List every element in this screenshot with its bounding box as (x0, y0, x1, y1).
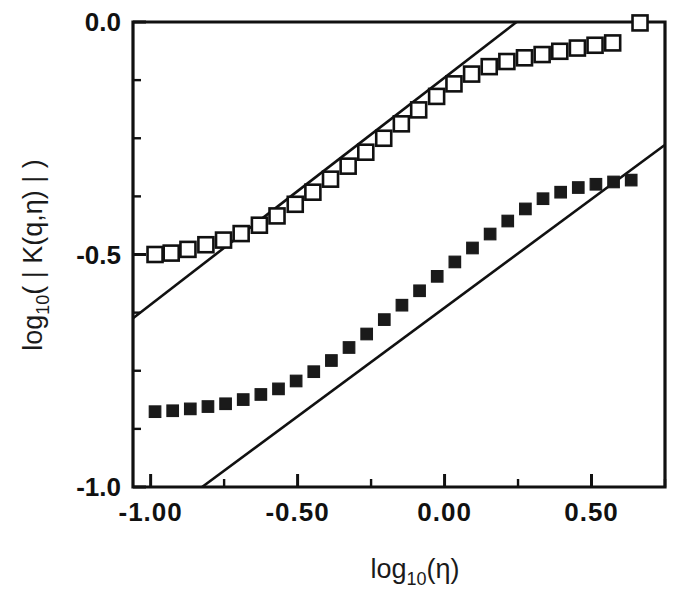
series-filled-squares (149, 174, 637, 417)
data-point-open-squares-3 (198, 237, 213, 252)
y-tick-label: -0.5 (76, 240, 121, 270)
data-point-filled-squares-24 (573, 182, 585, 194)
upper-fit-line (133, 22, 517, 318)
data-point-filled-squares-6 (255, 389, 266, 401)
data-point-open-squares-20 (499, 54, 514, 69)
data-point-open-squares-25 (588, 38, 603, 53)
data-point-filled-squares-19 (484, 228, 496, 240)
y-axis-tick-labels: 0.0-0.5-1.0 (76, 7, 121, 502)
plot-frame (133, 22, 665, 487)
x-tick-label: 0.00 (417, 497, 472, 527)
data-point-open-squares-27 (633, 15, 648, 30)
data-point-open-squares-15 (411, 102, 426, 117)
data-point-open-squares-19 (482, 59, 497, 74)
data-point-filled-squares-5 (237, 394, 249, 406)
data-point-open-squares-11 (341, 159, 356, 174)
x-axis-tick-labels: -1.00-0.500.000.50 (119, 497, 619, 527)
data-point-filled-squares-27 (625, 174, 637, 186)
x-tick-label: 0.50 (564, 497, 619, 527)
axis-frame (133, 22, 665, 487)
data-point-open-squares-22 (535, 47, 550, 62)
data-point-filled-squares-13 (379, 314, 391, 326)
lower-fit-line (202, 145, 664, 487)
data-point-filled-squares-25 (590, 179, 602, 191)
data-point-open-squares-12 (358, 145, 373, 160)
y-axis-major-ticks (133, 22, 146, 487)
x-axis-title-base: log (370, 554, 406, 584)
data-point-open-squares-16 (429, 89, 444, 104)
data-point-open-squares-4 (216, 233, 231, 248)
data-point-filled-squares-26 (608, 176, 620, 188)
data-point-filled-squares-22 (537, 193, 549, 205)
y-tick-label: 0.0 (85, 7, 121, 37)
y-axis-title-base: log (18, 315, 48, 351)
x-axis-title: log10(η) (370, 554, 459, 589)
fit-lines-group (133, 22, 664, 487)
svg-text:log10(η): log10(η) (370, 554, 459, 589)
data-point-open-squares-18 (464, 67, 479, 82)
x-axis-title-subscript: 10 (407, 569, 427, 589)
data-point-open-squares-23 (552, 44, 567, 59)
data-point-filled-squares-18 (467, 242, 479, 254)
data-point-filled-squares-12 (361, 328, 373, 340)
data-point-filled-squares-14 (396, 299, 408, 311)
x-tick-label: -1.00 (119, 497, 183, 527)
data-point-filled-squares-0 (149, 406, 161, 418)
data-point-filled-squares-8 (290, 375, 302, 387)
data-point-filled-squares-7 (273, 383, 285, 395)
data-point-filled-squares-4 (220, 398, 232, 410)
data-point-filled-squares-3 (202, 401, 214, 413)
data-point-open-squares-0 (148, 247, 163, 262)
chart-figure: -1.00-0.500.000.50 0.0-0.5-1.0 log10(η) … (0, 0, 690, 608)
data-point-open-squares-5 (234, 226, 249, 241)
x-axis-title-arg: (η) (427, 554, 460, 584)
data-point-open-squares-21 (517, 50, 532, 65)
series-open-squares (148, 15, 648, 262)
data-point-open-squares-10 (323, 172, 338, 187)
data-point-open-squares-6 (252, 218, 267, 233)
data-point-filled-squares-1 (167, 405, 179, 417)
data-point-open-squares-8 (288, 197, 303, 212)
data-point-filled-squares-11 (343, 342, 355, 354)
scatter-plot: -1.00-0.500.000.50 0.0-0.5-1.0 log10(η) … (0, 0, 690, 608)
y-axis-title-arg: ( | K(q,η) | ) (18, 159, 48, 295)
data-point-open-squares-24 (570, 41, 585, 56)
svg-text:log10( | K(q,η) | ): log10( | K(q,η) | ) (18, 159, 53, 351)
data-point-open-squares-13 (376, 131, 391, 146)
x-tick-label: -0.50 (265, 497, 329, 527)
data-point-open-squares-1 (164, 246, 179, 261)
data-point-open-squares-7 (270, 208, 285, 223)
data-point-open-squares-14 (394, 116, 409, 131)
data-point-open-squares-17 (446, 76, 461, 91)
data-point-open-squares-26 (605, 35, 620, 50)
y-tick-label: -1.0 (76, 472, 121, 502)
data-point-filled-squares-17 (449, 256, 461, 268)
data-point-filled-squares-15 (414, 285, 426, 297)
data-point-filled-squares-20 (502, 215, 514, 227)
y-axis-title: log10( | K(q,η) | ) (18, 159, 53, 351)
data-point-filled-squares-9 (308, 366, 320, 378)
data-point-filled-squares-21 (520, 203, 532, 215)
data-point-filled-squares-2 (185, 403, 197, 415)
data-point-filled-squares-16 (431, 271, 443, 283)
data-point-open-squares-2 (180, 242, 195, 257)
data-point-filled-squares-10 (326, 355, 338, 367)
y-axis-title-subscript: 10 (33, 295, 53, 315)
data-point-filled-squares-23 (555, 186, 567, 198)
data-point-open-squares-9 (305, 185, 320, 200)
